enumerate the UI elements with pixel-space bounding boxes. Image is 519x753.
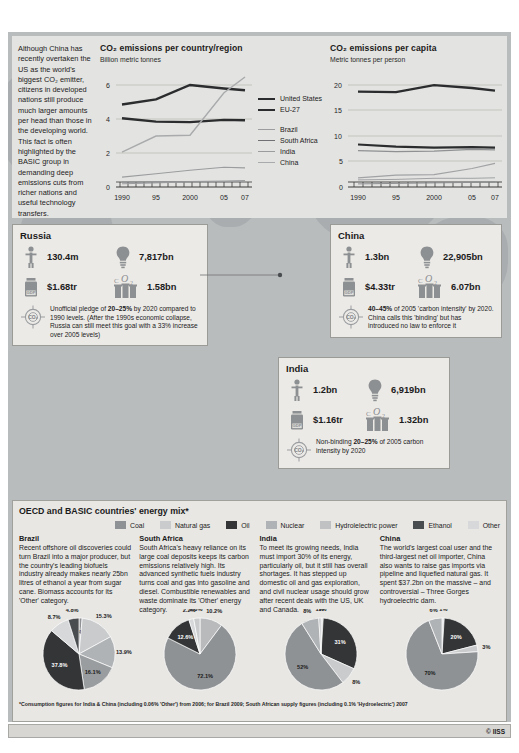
co2-target-icon: CO₂: [338, 305, 364, 329]
legend-item-hydro: Hydrolelectric power: [320, 521, 397, 529]
legend-item-coal: Coal: [115, 521, 144, 529]
legend-item: China: [258, 157, 322, 168]
legend-label: Other: [483, 522, 500, 529]
legend-item: United States: [258, 93, 322, 104]
legend-label: Coal: [130, 522, 144, 529]
pie-slice-label: 12.6%: [177, 634, 193, 640]
pledge-text: 40–45% of 2005 'carbon intensity' by 202…: [368, 305, 494, 331]
co2-target-icon: CO₂: [20, 305, 46, 329]
pie-slice-label: 72.1%: [197, 673, 213, 679]
legend-item-oil: Oil: [226, 521, 249, 529]
pie-slice-label: 8%: [303, 609, 311, 614]
column-south-africa: South Africa South Africa's heavy relian…: [139, 534, 259, 614]
series-south-africa: [358, 145, 495, 148]
lightbulb-icon: [416, 244, 438, 270]
legend-label: Oil: [241, 522, 249, 529]
co2-value: 1.32bn: [399, 415, 428, 425]
pie-slice-label: 8.7%: [48, 614, 61, 620]
energy-value: 22,905bn: [443, 252, 483, 262]
chart-emissions-per-capita: CO₂ emissions per capita Metric tonnes p…: [330, 43, 512, 205]
pledge-highlight: 20–25%: [108, 305, 132, 312]
series-brazil: [358, 178, 495, 180]
chart-title: CO₂ emissions per country/region: [100, 43, 318, 53]
pie-svg: 1%20%3%70%6%: [382, 609, 503, 704]
svg-text:05: 05: [468, 194, 476, 201]
legend-swatch-line: [258, 151, 275, 152]
pie-chart-row: 1.4%15.3%13.9%16.1%37.8%8.7%4.8% 10.2%72…: [19, 609, 502, 704]
svg-text:6: 6: [106, 82, 110, 89]
svg-text:95: 95: [392, 194, 400, 201]
chart-plot-area: 6 4 2 0 1990 95 2000 05 07: [100, 67, 318, 205]
svg-text:GDP: GDP: [26, 290, 35, 295]
column-china: China The world's largest coal user and …: [380, 534, 500, 614]
svg-text:O: O: [425, 274, 432, 284]
pie-slice-label: 16.1%: [85, 669, 101, 675]
pie-slice-label: 31%: [334, 639, 345, 645]
co2-value: 1.58bn: [147, 282, 176, 292]
legend-swatch-line: [258, 109, 275, 111]
svg-text:2000: 2000: [426, 194, 442, 201]
pie-slice-label: 37.8%: [52, 662, 68, 668]
svg-text:0: 0: [339, 184, 343, 191]
energy-mix-panel: OECD and BASIC countries' energy mix* Co…: [12, 500, 507, 722]
svg-text:07: 07: [491, 194, 499, 201]
pledge-block: CO₂ Unofficial pledge of 20–25% by 2020 …: [20, 305, 200, 339]
gdp-value: $4.33tr: [365, 282, 395, 292]
svg-text:O: O: [373, 407, 380, 417]
credit-bar: © IISS: [8, 724, 511, 738]
series-united-states: [358, 85, 495, 92]
pie-slice-label: 13.9%: [116, 649, 132, 655]
pie-slice-label: 15.3%: [96, 613, 112, 619]
legend-label: United States: [280, 95, 322, 102]
legend-item: EU-27: [258, 104, 322, 115]
legend-item-ethanol: Ethanol: [413, 521, 451, 529]
pie-slice-label: 52%: [297, 664, 308, 670]
chart-legend: United States EU-27 Brazil South Africa …: [258, 93, 322, 168]
pledge-highlight: 20–25%: [353, 438, 377, 445]
pie-chart-india: 1%31%8%52%8%1%: [261, 609, 382, 704]
svg-text:CO₂: CO₂: [294, 447, 304, 453]
svg-text:C: C: [418, 277, 423, 285]
pie-chart-china: 1%20%3%70%6%: [382, 609, 503, 704]
coal-swatch: [115, 521, 126, 529]
pie-chart-brazil: 1.4%15.3%13.9%16.1%37.8%8.7%4.8%: [19, 609, 140, 704]
column-india: India To meet its growing needs, India m…: [260, 534, 380, 614]
column-brazil: Brazil Recent offshore oil discoveries c…: [19, 534, 139, 614]
svg-text:4: 4: [106, 116, 110, 123]
country-card-china: China 1.3bn 22,905bn GDP $4.33tr: [330, 224, 502, 338]
legend-swatch-line: [258, 140, 275, 141]
pie-svg: 10.2%72.1%12.6%2.2%2.8%: [140, 609, 261, 704]
pledge-text: Non-binding 20–25% of 2005 carbon intens…: [316, 438, 442, 455]
legend-label: China: [280, 159, 298, 166]
pie-slice-label: 10.2%: [206, 609, 222, 614]
population-value: 1.2bn: [313, 385, 337, 395]
column-title: China: [380, 534, 493, 543]
column-text: Recent offshore oil discoveries could tu…: [19, 544, 132, 606]
lightbulb-icon: [112, 244, 134, 270]
series-eu27: [358, 149, 495, 151]
pie-slice-label: 1%: [439, 609, 447, 612]
column-title: India: [260, 534, 373, 543]
co2-value: 6.07bn: [451, 282, 480, 292]
svg-text:07: 07: [241, 194, 249, 201]
legend-swatch-line: [258, 162, 275, 163]
legend-label: India: [280, 148, 295, 155]
pledge-block: CO₂ Non-binding 20–25% of 2005 carbon in…: [286, 438, 442, 462]
nuclear-swatch: [266, 521, 277, 529]
credit-label: © IISS: [486, 728, 505, 735]
co2-plant-icon: CO2: [112, 274, 142, 300]
connector-line: [200, 265, 290, 285]
pie-svg: 1.4%15.3%13.9%16.1%37.8%8.7%4.8%: [19, 609, 140, 704]
svg-text:10: 10: [334, 133, 342, 140]
legend-item: India: [258, 146, 322, 157]
column-title: Brazil: [19, 534, 132, 543]
oil-swatch: [226, 521, 237, 529]
energy-value: 7,817bn: [139, 252, 174, 262]
legend-label: Brazil: [280, 126, 298, 133]
svg-text:O: O: [121, 274, 128, 284]
svg-text:20: 20: [334, 82, 342, 89]
other-swatch: [468, 521, 479, 529]
co2-plant-icon: CO2: [416, 274, 446, 300]
population-value: 1.3bn: [365, 252, 389, 262]
chart-subtitle: Metric tonnes per person: [330, 56, 512, 63]
